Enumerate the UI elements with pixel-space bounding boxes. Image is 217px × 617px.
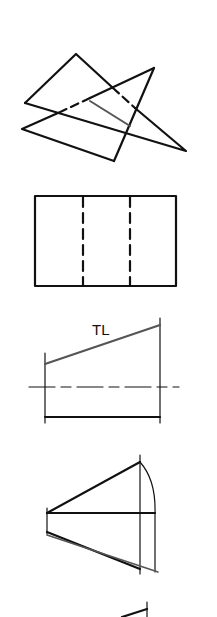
diagram-canvas: TL	[0, 0, 217, 617]
figure-intersecting-planes	[22, 54, 186, 161]
triangle-2-hidden-edge	[58, 98, 90, 113]
figure-true-length-view: TL	[29, 318, 179, 423]
revolved-edge-upper	[47, 462, 140, 513]
triangle-2-edge-left-bottom	[22, 113, 114, 161]
figure-partial	[122, 602, 147, 617]
figure-rectangle-hidden-lines	[35, 196, 176, 286]
triangle-2-edge-right	[114, 68, 154, 161]
lower-edge-true-length	[47, 535, 158, 572]
tl-label: TL	[92, 321, 110, 338]
revolution-arc	[140, 462, 155, 513]
rectangle-outline	[35, 196, 176, 286]
triangle-1-edge-top-left	[25, 54, 113, 103]
partial-diagonal	[122, 609, 147, 617]
figure-revolution-construction	[47, 455, 158, 574]
intersection-line	[90, 101, 130, 126]
triangle-2-edge-top-visible	[90, 68, 154, 98]
triangle-1-hidden-edge	[113, 88, 135, 108]
